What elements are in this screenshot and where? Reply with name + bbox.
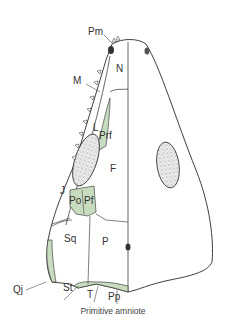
label-parietal: P — [102, 237, 109, 247]
skull-outline — [47, 40, 213, 293]
label-nasal: N — [116, 64, 123, 74]
left-naris — [108, 46, 114, 54]
label-supratemporal: St — [63, 283, 72, 293]
label-premaxilla: Pm — [88, 27, 103, 37]
right-naris — [145, 48, 150, 55]
label-frontal: F — [110, 164, 116, 174]
label-tabular: T — [87, 290, 93, 300]
label-postparietal: Pp — [108, 292, 120, 302]
label-prefrontal: Prf — [99, 131, 112, 141]
label-postorbital: Po — [69, 196, 81, 206]
label-postfrontal: Pf — [84, 196, 93, 206]
label-jugal: J — [60, 186, 65, 196]
label-quadratojugal: Qj — [13, 285, 23, 295]
pineal-foramen — [126, 244, 131, 251]
figure-caption: Primitive amniote — [0, 306, 226, 316]
label-lacrimal: L — [93, 123, 99, 133]
label-squamosal: Sq — [64, 234, 76, 244]
label-maxilla: M — [73, 76, 81, 86]
